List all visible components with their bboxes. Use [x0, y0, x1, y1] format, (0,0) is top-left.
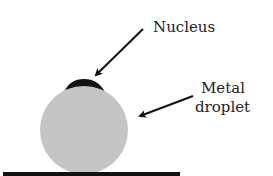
droplet-label-line1: Metal — [201, 79, 245, 97]
substrate-line — [3, 172, 180, 176]
droplet-arrow — [140, 96, 193, 116]
nucleus-arrow — [96, 29, 143, 75]
droplet-label-line2: droplet — [195, 98, 250, 116]
nucleus-label: Nucleus — [153, 18, 215, 36]
diagram-canvas: Nucleus Metal droplet — [0, 0, 273, 176]
metal-droplet — [40, 86, 128, 174]
